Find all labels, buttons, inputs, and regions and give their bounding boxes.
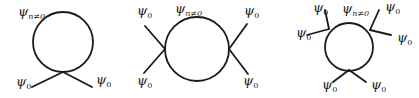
leg-label: ψ0 <box>96 72 111 89</box>
external-leg <box>370 10 379 30</box>
external-leg <box>349 70 366 82</box>
leg-label: ψ0 <box>371 77 386 94</box>
diagram-3-triangle: ψn≠0 ψ0 ψ0 ψ0 ψ0 ψ0 ψ0 <box>296 0 412 94</box>
external-leg <box>63 72 92 87</box>
external-leg <box>144 49 165 73</box>
diagram-1-tadpole: ψn≠0 ψ0 ψ0 <box>16 4 111 91</box>
external-leg <box>333 70 349 82</box>
loop-circle <box>165 17 229 81</box>
loop-label: ψn≠0 <box>18 4 45 21</box>
feynman-diagrams: ψn≠0 ψ0 ψ0 ψn≠0 ψ0 ψ0 ψ0 ψ0 ψn≠0 ψ0 ψ0 ψ… <box>0 0 419 98</box>
leg-label: ψ0 <box>137 73 152 90</box>
leg-label: ψ0 <box>296 25 311 42</box>
leg-label: ψ0 <box>243 73 258 90</box>
leg-label: ψ0 <box>397 30 412 47</box>
external-leg <box>32 72 63 87</box>
loop-circle <box>325 23 373 71</box>
external-leg <box>229 24 247 49</box>
loop-label: ψn≠0 <box>175 1 202 18</box>
external-leg <box>229 49 248 74</box>
leg-label: ψ0 <box>244 3 259 20</box>
diagram-2-bubble: ψn≠0 ψ0 ψ0 ψ0 ψ0 <box>137 1 259 90</box>
external-leg <box>145 26 165 49</box>
leg-label: ψ0 <box>313 0 328 17</box>
leg-label: ψ0 <box>137 3 152 20</box>
leg-label: ψ0 <box>385 0 400 16</box>
external-leg <box>370 30 391 35</box>
loop-label: ψn≠0 <box>342 1 369 18</box>
leg-label: ψ0 <box>16 74 31 91</box>
loop-circle <box>33 12 93 72</box>
